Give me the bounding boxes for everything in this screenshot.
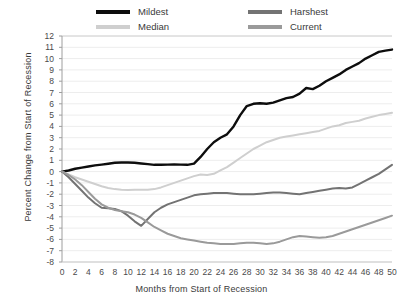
y-tick-label: -7 (32, 247, 54, 255)
y-tick-label: 11 (32, 43, 54, 51)
y-tick-label: -8 (32, 258, 54, 266)
y-tick-label: -5 (32, 224, 54, 232)
plot-area (0, 0, 403, 301)
y-tick-label: 4 (32, 122, 54, 130)
y-tick-label: -2 (32, 190, 54, 198)
y-tick-label: -6 (32, 235, 54, 243)
recession-comparison-chart: Mildest Median Harshest Current -8-7-6-5… (0, 0, 403, 301)
y-tick-label: -3 (32, 202, 54, 210)
y-tick-label: 7 (32, 89, 54, 97)
y-tick-label: 10 (32, 55, 54, 63)
series-line-median (62, 113, 392, 190)
y-tick-label: 1 (32, 156, 54, 164)
y-tick-label: -4 (32, 213, 54, 221)
y-tick-label: 6 (32, 100, 54, 108)
y-tick-label: -1 (32, 179, 54, 187)
y-tick-label: 0 (32, 168, 54, 176)
x-axis-title: Months from Start of Recession (0, 284, 403, 294)
y-tick-label: 2 (32, 145, 54, 153)
y-tick-label: 12 (32, 32, 54, 40)
y-tick-label: 5 (32, 111, 54, 119)
y-tick-label: 3 (32, 134, 54, 142)
y-axis-title: Percent Change from Start of Recession (23, 47, 33, 227)
y-tick-label: 8 (32, 77, 54, 85)
y-tick-label: 9 (32, 66, 54, 74)
series-line-mildest (62, 50, 392, 172)
x-tick-label: 50 (383, 268, 401, 276)
